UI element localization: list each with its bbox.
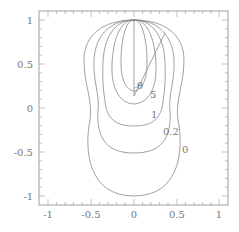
x-tick-label: 0 [131, 209, 137, 220]
contour-label-1: 1 [151, 109, 157, 120]
x-tick-label: 0.5 [169, 209, 185, 220]
x-ticks [48, 11, 219, 205]
y-tick-label: 1 [27, 15, 33, 26]
x-tick-labels: -1 -0.5 0 0.5 1 [43, 209, 222, 220]
plot-frame [39, 11, 228, 205]
x-tick-label: -1 [43, 209, 53, 220]
contour-label-5: 5 [150, 89, 156, 100]
x-tick-label: -0.5 [81, 209, 100, 220]
y-ticks [39, 20, 228, 196]
x-tick-label: 1 [216, 209, 222, 220]
contour-plot: -1 -0.5 0 0.5 1 1 0.5 0 -0.5 -1 θ 5 1 0.… [0, 0, 239, 232]
y-tick-label: -0.5 [14, 147, 33, 158]
theta-label: θ [137, 80, 143, 91]
y-tick-label: 0 [27, 103, 33, 114]
contour-label-0: 0 [182, 144, 188, 155]
y-tick-labels: 1 0.5 0 -0.5 -1 [14, 15, 33, 202]
contour-label-0.2: 0.2 [163, 126, 179, 137]
y-tick-label: 0.5 [17, 59, 33, 70]
y-tick-label: -1 [23, 191, 33, 202]
